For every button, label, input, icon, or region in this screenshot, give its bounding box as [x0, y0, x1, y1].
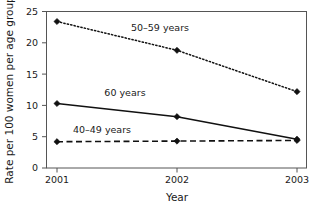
- series-60-years: [54, 100, 300, 142]
- chart-figure: 0 5 10 15 20 25 Rate per 100 women per a…: [0, 0, 315, 207]
- series-label-50-59: 50–59 years: [131, 22, 189, 33]
- x-tick-label-2002: 2002: [165, 174, 189, 185]
- y-axis-title: Rate per 100 women per age group: [3, 0, 15, 184]
- series-label-60: 60 years: [104, 87, 145, 98]
- data-point: [54, 139, 60, 145]
- y-tick-label-25: 25: [26, 6, 38, 17]
- series-label-40-49: 40–49 years: [73, 124, 131, 135]
- x-tick-label-2001: 2001: [45, 174, 69, 185]
- data-point: [294, 89, 300, 95]
- y-tick-label-20: 20: [26, 37, 38, 48]
- plot-frame: [47, 12, 307, 169]
- x-axis-ticks: [57, 168, 297, 173]
- data-point: [174, 47, 180, 53]
- y-tick-label-5: 5: [32, 131, 38, 142]
- x-axis-title: Year: [165, 191, 189, 203]
- data-point: [174, 138, 180, 144]
- y-tick-label-15: 15: [26, 69, 38, 80]
- y-tick-label-10: 10: [26, 100, 38, 111]
- x-tick-label-2003: 2003: [285, 174, 309, 185]
- data-point: [174, 114, 180, 120]
- data-point: [54, 18, 60, 24]
- y-axis-ticks: [42, 12, 47, 169]
- series-40-49-years: [54, 137, 300, 144]
- y-tick-label-0: 0: [32, 162, 38, 173]
- data-point: [54, 100, 60, 106]
- line-chart: 0 5 10 15 20 25 Rate per 100 women per a…: [0, 0, 315, 207]
